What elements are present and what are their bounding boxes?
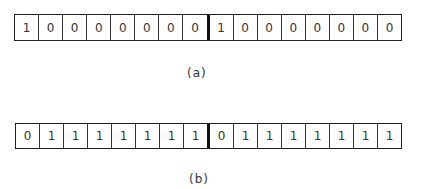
caption-b: (b): [189, 172, 209, 186]
bit-cell: 1: [88, 124, 112, 148]
bit-register-a: 1 0 0 0 0 0 0 0 1 0 0 0 0 0 0 0: [14, 14, 402, 41]
bit-cell: 1: [64, 124, 88, 148]
bit-cell: 1: [40, 124, 64, 148]
bit-cell: 0: [234, 15, 258, 40]
bit-cell: 1: [160, 124, 184, 148]
bit-cell: 1: [15, 15, 39, 40]
bit-cell: 1: [112, 124, 136, 148]
bit-register-b: 0 1 1 1 1 1 1 1 0 1 1 1 1 1 1 1: [15, 123, 402, 149]
bit-cell: 0: [183, 15, 209, 40]
bit-cell: 0: [87, 15, 111, 40]
bit-cell: 0: [210, 124, 234, 148]
bit-cell: 1: [378, 124, 401, 148]
bit-cell: 0: [354, 15, 378, 40]
bit-cell: 0: [63, 15, 87, 40]
bit-cell: 1: [282, 124, 306, 148]
bit-cell: 1: [258, 124, 282, 148]
bit-cell: 0: [378, 15, 401, 40]
bit-cell: 0: [330, 15, 354, 40]
bit-cell: 1: [210, 15, 234, 40]
bit-cell: 0: [39, 15, 63, 40]
bit-cell: 0: [159, 15, 183, 40]
bit-cell: 1: [136, 124, 160, 148]
bit-cell: 1: [306, 124, 330, 148]
bit-cell: 0: [135, 15, 159, 40]
bit-cell: 1: [234, 124, 258, 148]
caption-a: (a): [187, 66, 207, 80]
bit-cell: 0: [111, 15, 135, 40]
bit-cell: 1: [184, 124, 210, 148]
bit-cell: 0: [258, 15, 282, 40]
bit-cell: 0: [306, 15, 330, 40]
bit-cell: 1: [354, 124, 378, 148]
bit-cell: 0: [16, 124, 40, 148]
bit-cell: 0: [282, 15, 306, 40]
bit-cell: 1: [330, 124, 354, 148]
